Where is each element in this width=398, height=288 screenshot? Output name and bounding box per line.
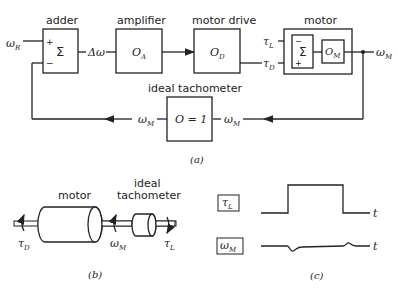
tau-d-label: τD (263, 57, 275, 72)
svg-text:t: t (373, 240, 378, 253)
adder-title: adder (46, 14, 78, 27)
caption-c: (c) (310, 270, 324, 281)
svg-text:tachometer: tachometer (117, 189, 181, 202)
svg-text:ωM: ωM (224, 113, 241, 128)
motor-title: motor (304, 14, 337, 27)
tachometer-equation: O = 1 (175, 113, 207, 126)
svg-text:+: + (295, 59, 302, 68)
delta-omega-label: Δω (87, 46, 105, 59)
svg-text:−: − (46, 58, 54, 68)
caption-a: (a) (190, 154, 204, 165)
tau-d-b: τD (18, 237, 30, 252)
svg-text:t: t (373, 207, 378, 220)
caption-b: (b) (88, 269, 102, 280)
omega-m-waveform (261, 243, 370, 251)
input-omega-r: ωR (6, 37, 21, 52)
motor-drive-title: motor drive (192, 14, 257, 27)
svg-text:+: + (46, 37, 54, 47)
svg-text:ωM: ωM (138, 113, 155, 128)
tachometer-title: ideal tachometer (148, 82, 242, 95)
motor-label: motor (58, 189, 91, 202)
output-omega-m: ωM (376, 46, 393, 61)
sigma-symbol: Σ (56, 44, 64, 59)
waveforms-c: τL t ωM t (c) (217, 185, 378, 281)
tau-l-label: τL (263, 35, 274, 50)
block-diagram-a: ωR adder + − Σ Δω amplifier OA motor dri… (6, 14, 393, 165)
tau-l-waveform (261, 185, 370, 213)
amplifier-title: amplifier (117, 14, 166, 27)
tau-l-b: τL (164, 237, 175, 252)
svg-text:Σ: Σ (299, 45, 307, 59)
omega-m-b: ωM (110, 237, 127, 252)
motor-illustration-b: motor ideal tachometer τD ωM τL (b) (14, 177, 181, 280)
